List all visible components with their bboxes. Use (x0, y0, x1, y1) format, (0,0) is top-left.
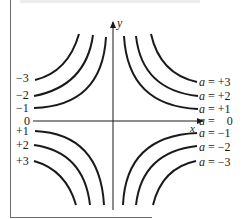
left-label-plus-3: +3 (16, 155, 29, 167)
curve-a-plus-1-lower-left (35, 131, 104, 205)
curve-a-minus-3-upper-left (35, 34, 79, 80)
right-label-a-minus-3: a = −3 (199, 156, 231, 168)
left-label-minus-1: −1 (16, 102, 29, 114)
right-label-a-plus-3: a = +3 (199, 76, 231, 88)
curve-a-plus-1-upper-right (124, 36, 198, 109)
curve-a-minus-2-lower-right (136, 146, 197, 205)
curve-a-minus-3-lower-right (153, 161, 196, 205)
curve-a-minus-1-upper-left (34, 37, 106, 108)
curve-a-plus-2-lower-left (34, 145, 90, 205)
right-label-a-plus-2: a = +2 (199, 90, 231, 102)
curve-a-minus-2-upper-left (34, 35, 93, 96)
left-label-minus-2: −2 (16, 89, 29, 101)
curve-a-plus-3-lower-left (34, 161, 76, 205)
left-label-plus-1: +1 (16, 125, 29, 137)
curve-a-minus-1-lower-right (123, 133, 197, 205)
y-axis-label: y (117, 17, 122, 29)
left-label-plus-2: +2 (16, 139, 29, 151)
right-label-a-minus-2: a = −2 (199, 141, 231, 153)
x-axis-label: x (190, 122, 195, 134)
curve-a-plus-3-upper-right (151, 34, 197, 82)
right-label-a-minus-1: a = −1 (199, 127, 231, 139)
left-label-minus-3: −3 (16, 72, 29, 84)
